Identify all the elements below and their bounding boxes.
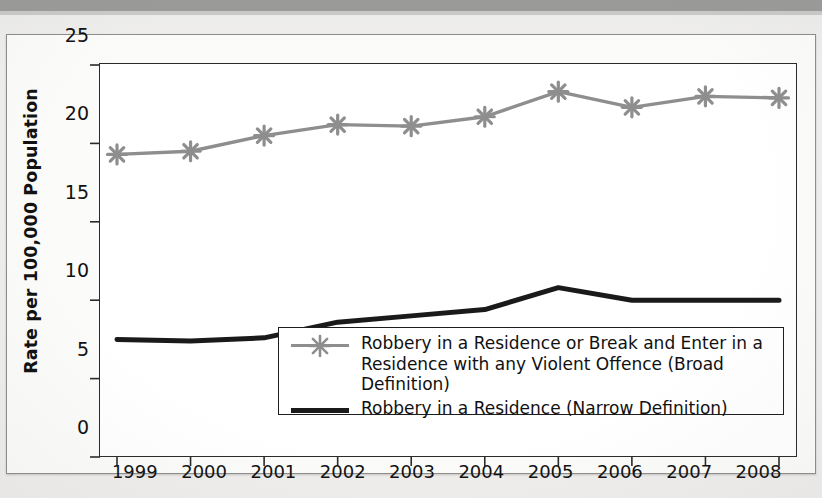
chart-legend: Robbery in a Residence or Break and Ente… [278,327,784,415]
figure-page: Rate per 100,000 Population 25 20 15 10 … [0,0,822,498]
legend-swatch-broad-icon [287,334,355,356]
y-tick-label: 20 [49,102,89,124]
figure-card: Rate per 100,000 Population 25 20 15 10 … [6,34,816,474]
y-tick-label: 25 [49,24,89,46]
asterisk-marker-icon [308,334,332,358]
y-axis-ticks: 25 20 15 10 5 0 [41,35,89,427]
x-tick-label: 2006 [584,461,656,482]
legend-item-broad: Robbery in a Residence or Break and Ente… [287,333,775,395]
y-tick-marks [90,65,100,457]
scan-edge-band [0,0,822,11]
x-tick-label: 2005 [515,461,587,482]
x-tick-label: 2002 [307,461,379,482]
x-tick-label: 2008 [723,461,795,482]
x-tick-label: 2004 [445,461,517,482]
y-tick-label: 0 [49,416,89,438]
y-axis-title: Rate per 100,000 Population [21,51,41,411]
legend-label-narrow: Robbery in a Residence (Narrow Definitio… [361,398,728,419]
legend-swatch-narrow-icon [287,399,355,421]
y-tick-label: 15 [49,181,89,203]
legend-label-broad: Robbery in a Residence or Break and Ente… [361,333,775,395]
x-tick-label: 2001 [237,461,309,482]
y-tick-label: 10 [49,259,89,281]
x-tick-label: 2000 [168,461,240,482]
x-tick-label: 1999 [99,461,171,482]
x-tick-label: 2003 [376,461,448,482]
legend-item-narrow: Robbery in a Residence (Narrow Definitio… [287,398,775,421]
x-tick-label: 2007 [653,461,725,482]
y-tick-label: 5 [49,338,89,360]
x-axis-ticks: 1999 2000 2001 2002 2003 2004 2005 2006 … [99,461,797,495]
series-line-broad [117,92,779,155]
scan-edge-band-secondary [0,11,822,15]
